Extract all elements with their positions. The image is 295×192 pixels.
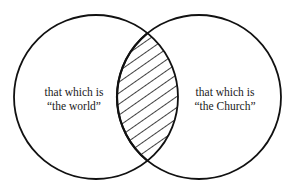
label-the-church-line2: “the Church”	[175, 99, 275, 113]
label-the-world-line2: “the world”	[24, 99, 124, 113]
label-the-church-line1: that which is	[175, 85, 275, 99]
label-the-church: that which is “the Church”	[175, 85, 275, 113]
label-the-world-line1: that which is	[24, 85, 124, 99]
label-the-world: that which is “the world”	[24, 85, 124, 113]
